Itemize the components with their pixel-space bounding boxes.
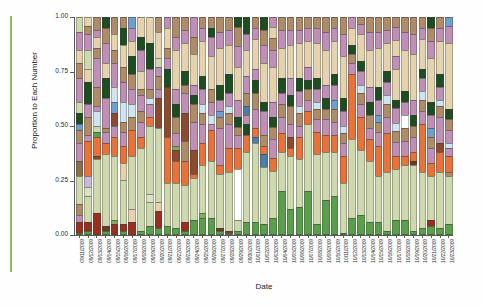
bar-segment	[181, 222, 189, 231]
bar-segment	[269, 117, 277, 127]
stacked-bar[interactable]	[242, 17, 251, 235]
bar-segment	[419, 39, 427, 70]
stacked-bar[interactable]	[295, 17, 304, 235]
bar-segment	[278, 191, 286, 235]
bar-segment	[296, 43, 304, 78]
bar-segment	[84, 34, 92, 49]
bar-segment	[357, 24, 365, 35]
bar-segment	[401, 220, 409, 235]
bar-segment	[155, 17, 163, 32]
stacked-bar[interactable]	[365, 17, 374, 235]
bar-segment	[331, 135, 339, 152]
stacked-bar[interactable]	[137, 17, 146, 235]
bar-segment	[331, 196, 339, 235]
stacked-bar[interactable]	[75, 17, 84, 235]
stacked-bar[interactable]	[418, 17, 427, 235]
bar-segment	[269, 139, 277, 158]
bar-segment	[243, 17, 251, 34]
bar-segment	[76, 78, 84, 102]
stacked-bar[interactable]	[383, 17, 392, 235]
stacked-bar[interactable]	[286, 17, 295, 235]
bar-segment	[410, 137, 418, 152]
stacked-bar[interactable]	[154, 17, 163, 235]
bar-segment	[383, 17, 391, 30]
stacked-bar[interactable]	[172, 17, 181, 235]
bar-segment	[76, 63, 84, 78]
bar-segment	[260, 17, 268, 30]
y-tick-label: 1.00	[38, 13, 68, 21]
bar-segment	[287, 106, 295, 123]
stacked-bar[interactable]	[119, 17, 128, 235]
bar-segment	[102, 17, 110, 28]
stacked-bar[interactable]	[233, 17, 242, 235]
bar-segment	[111, 137, 119, 157]
x-tick-label: 10/01/2009	[251, 239, 260, 279]
bar-segment	[234, 27, 242, 46]
bar-segment	[287, 95, 295, 106]
stacked-bar[interactable]	[374, 17, 383, 235]
stacked-bar[interactable]	[260, 17, 269, 235]
bar-segment	[243, 124, 251, 135]
stacked-bar[interactable]	[409, 17, 418, 235]
stacked-bar[interactable]	[427, 17, 436, 235]
stacked-bar[interactable]	[225, 17, 234, 235]
bar-segment	[260, 45, 268, 62]
bar-segment	[172, 89, 180, 104]
bar-segment	[427, 17, 435, 28]
stacked-bar[interactable]	[304, 17, 313, 235]
stacked-bar[interactable]	[101, 17, 110, 235]
stacked-bar[interactable]	[84, 17, 93, 235]
bar-segment	[445, 43, 453, 108]
stacked-bar[interactable]	[348, 17, 357, 235]
stacked-bar[interactable]	[357, 17, 366, 235]
stacked-bar[interactable]	[93, 17, 102, 235]
bar-segment	[120, 67, 128, 82]
bar-segment	[419, 28, 427, 39]
stacked-bar[interactable]	[339, 17, 348, 235]
bar-segment	[252, 28, 260, 39]
bar-segment	[357, 104, 365, 117]
bar-segment	[146, 226, 154, 235]
bar-segment	[427, 128, 435, 137]
x-tick-label: 09/29/2009	[233, 239, 242, 279]
stacked-bar[interactable]	[189, 17, 198, 235]
bar-segment	[84, 82, 92, 104]
stacked-bar[interactable]	[313, 17, 322, 235]
bar-segment	[181, 93, 189, 113]
bar-segment	[427, 163, 435, 176]
bar-segment	[278, 17, 286, 30]
stacked-bar[interactable]	[181, 17, 190, 235]
bar-segment	[93, 48, 101, 59]
stacked-bar[interactable]	[392, 17, 401, 235]
bar-segment	[296, 126, 304, 137]
stacked-bar[interactable]	[128, 17, 137, 235]
stacked-bar[interactable]	[145, 17, 154, 235]
bar-segment	[287, 137, 295, 148]
stacked-bar[interactable]	[198, 17, 207, 235]
bar-segment	[260, 102, 268, 111]
stacked-bar[interactable]	[321, 17, 330, 235]
bar-segment	[172, 150, 180, 161]
stacked-bar[interactable]	[330, 17, 339, 235]
stacked-bar[interactable]	[277, 17, 286, 235]
stacked-bar[interactable]	[163, 17, 172, 235]
bar-segment	[357, 85, 365, 94]
bar-segment	[199, 17, 207, 28]
bar-segment	[234, 220, 242, 230]
stacked-bar[interactable]	[444, 17, 453, 235]
stacked-bar[interactable]	[251, 17, 260, 235]
stacked-bar[interactable]	[110, 17, 119, 235]
bar-segment	[128, 222, 136, 235]
stacked-bar[interactable]	[400, 17, 409, 235]
bar-segment	[357, 215, 365, 235]
bar-segment	[111, 50, 119, 63]
stacked-bar[interactable]	[207, 17, 216, 235]
bar-segment	[225, 124, 233, 148]
stacked-bar[interactable]	[269, 17, 278, 235]
bar-segment	[287, 30, 295, 45]
bar-segment	[234, 148, 242, 169]
stacked-bar[interactable]	[436, 17, 445, 235]
stacked-bar[interactable]	[216, 17, 225, 235]
bar-segment	[137, 50, 145, 72]
bar-segment	[181, 185, 189, 222]
